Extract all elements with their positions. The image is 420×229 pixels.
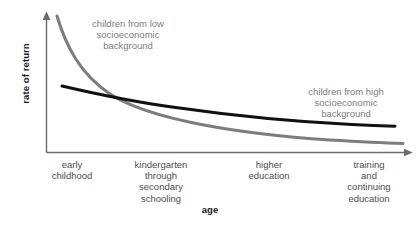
x-category-schooling-line-1: kindergarten bbox=[118, 159, 204, 170]
x-category-higher-education-line-1: higher bbox=[230, 159, 308, 170]
x-axis-title: age bbox=[170, 204, 250, 215]
x-category-schooling-line-2: through bbox=[118, 170, 204, 181]
x-category-training-line-2: and bbox=[330, 170, 408, 181]
x-category-schooling-line-4: schooling bbox=[118, 193, 204, 204]
heckman-rate-of-return-chart: rate of return age children from low soc… bbox=[0, 0, 420, 229]
x-category-early-childhood: early childhood bbox=[36, 159, 108, 181]
low-ses-label-line-1: children from low bbox=[66, 18, 190, 29]
x-category-schooling-line-3: secondary bbox=[118, 181, 204, 192]
x-category-early-childhood-line-2: childhood bbox=[36, 170, 108, 181]
x-category-schooling: kindergarten through secondary schooling bbox=[118, 159, 204, 204]
high-ses-label-line-1: children from high bbox=[286, 86, 406, 97]
low-ses-label-line-2: socioeconomic bbox=[66, 29, 190, 40]
x-category-higher-education-line-2: education bbox=[230, 170, 308, 181]
x-category-training: training and continuing education bbox=[330, 159, 408, 204]
low-ses-label-line-3: background bbox=[66, 40, 190, 51]
high-ses-label-line-2: socioeconomic bbox=[286, 97, 406, 108]
high-ses-label-line-3: background bbox=[286, 108, 406, 119]
x-category-training-line-4: education bbox=[330, 193, 408, 204]
x-category-training-line-1: training bbox=[330, 159, 408, 170]
x-category-higher-education: higher education bbox=[230, 159, 308, 181]
low-ses-series-label: children from low socioeconomic backgrou… bbox=[66, 18, 190, 52]
x-category-training-line-3: continuing bbox=[330, 181, 408, 192]
x-category-early-childhood-line-1: early bbox=[36, 159, 108, 170]
high-ses-series-label: children from high socioeconomic backgro… bbox=[286, 86, 406, 120]
y-axis-title: rate of return bbox=[20, 29, 31, 119]
